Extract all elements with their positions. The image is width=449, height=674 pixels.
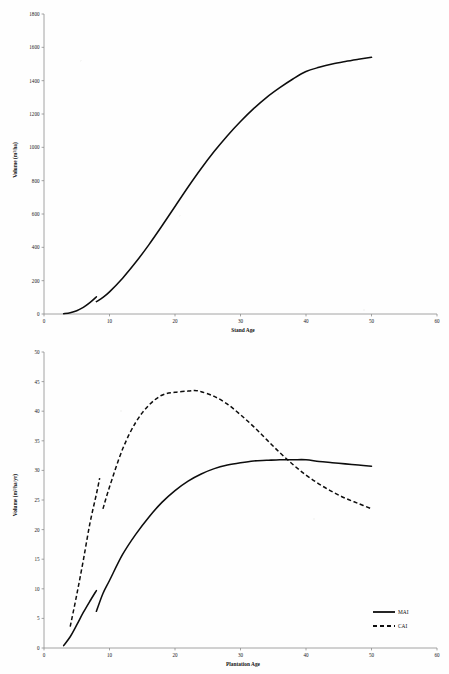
x-tick-label: 40 (303, 652, 309, 658)
y-tick-label: 1400 (29, 78, 40, 84)
y-tick-label: 20 (34, 527, 40, 533)
y-tick-label: 800 (32, 178, 40, 184)
y-tick-label: 50 (34, 349, 40, 355)
chart-increment-curves: 010203040506005101520253035404550 MAICAI… (0, 340, 449, 674)
standing-volume-plot: 0102030405060020040060080010001200140016… (0, 0, 449, 340)
y-tick-label: 45 (34, 379, 40, 385)
legend-label-mai: MAI (398, 609, 409, 615)
series-cai (103, 390, 372, 508)
x-tick-label: 30 (238, 652, 244, 658)
y-tick-label: 600 (32, 211, 40, 217)
x-tick-label: 10 (107, 318, 113, 324)
series-standing-volume (96, 57, 371, 301)
x-tick-label: 10 (107, 652, 113, 658)
y-tick-label: 0 (37, 645, 40, 651)
x-tick-label: 0 (43, 652, 46, 658)
y-tick-label: 200 (32, 278, 40, 284)
y-tick-label: 1800 (29, 11, 40, 17)
bottom-series-group (64, 390, 372, 645)
figure-page: 0102030405060020040060080010001200140016… (0, 0, 449, 674)
y-tick-label: 30 (34, 467, 40, 473)
series-standing-volume (64, 297, 97, 314)
y-tick-label: 5 (37, 615, 40, 621)
x-tick-label: 60 (434, 652, 440, 658)
x-tick-label: 60 (434, 318, 440, 324)
x-tick-label: 40 (303, 318, 309, 324)
increment-curves-plot: 010203040506005101520253035404550 MAICAI… (0, 340, 449, 674)
x-axis-title: Stand Age (231, 327, 255, 333)
legend-label-cai: CAI (398, 623, 407, 629)
top-axes-group: 0102030405060020040060080010001200140016… (29, 11, 440, 324)
y-tick-label: 1200 (29, 111, 40, 117)
y-tick-label: 15 (34, 556, 40, 562)
y-tick-label: 0 (37, 311, 40, 317)
x-tick-label: 0 (43, 318, 46, 324)
top-series-group (64, 57, 372, 313)
x-tick-label: 50 (369, 652, 375, 658)
y-tick-label: 400 (32, 244, 40, 250)
series-mai (64, 591, 97, 646)
y-axis-title: Volume (m³/ha/yr) (12, 474, 19, 516)
x-tick-label: 20 (172, 318, 178, 324)
chart-legend: MAICAI (373, 609, 409, 629)
series-cai (70, 478, 99, 627)
x-axis-title: Plantation Age (226, 661, 261, 667)
y-tick-label: 1600 (29, 44, 40, 50)
series-mai (96, 460, 371, 612)
y-tick-label: 40 (34, 408, 40, 414)
y-tick-label: 35 (34, 438, 40, 444)
y-tick-label: 1000 (29, 144, 40, 150)
x-tick-label: 20 (172, 652, 178, 658)
y-axis-title: Volume (m³/ha) (12, 142, 19, 178)
y-tick-label: 10 (34, 586, 40, 592)
y-tick-label: 25 (34, 497, 40, 503)
x-tick-label: 50 (369, 318, 375, 324)
chart-standing-volume: 0102030405060020040060080010001200140016… (0, 0, 449, 340)
x-tick-label: 30 (238, 318, 244, 324)
